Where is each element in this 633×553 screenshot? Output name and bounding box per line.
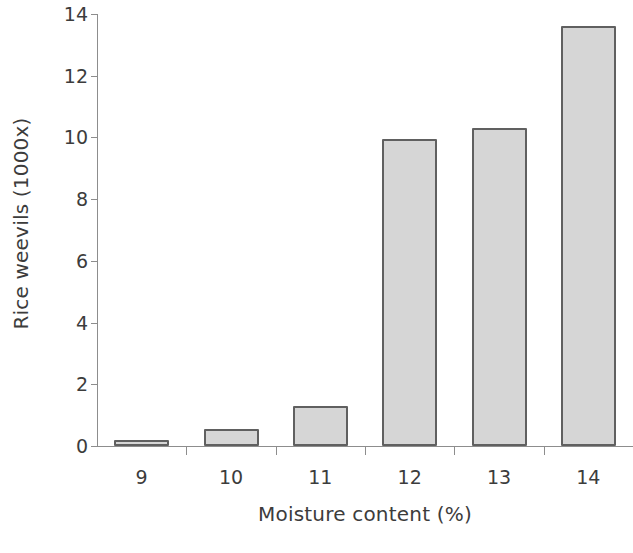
x-axis-tick-mark: [276, 447, 277, 455]
x-axis-tick-label: 14: [576, 466, 600, 488]
y-axis-tick-label: 8: [76, 188, 88, 210]
y-axis-tick-mark: [91, 323, 97, 324]
bar-chart-figure: Rice weevils (1000x) 02468101214 9101112…: [0, 0, 633, 553]
plot-area: 02468101214 91011121314: [97, 14, 633, 447]
y-axis-tick-label: 4: [76, 312, 88, 334]
x-axis-tick-label: 13: [487, 466, 511, 488]
y-axis-tick-mark: [91, 384, 97, 385]
bar: [293, 406, 348, 446]
y-axis-title: Rice weevils (1000x): [0, 0, 42, 447]
x-axis-tick-mark: [365, 447, 366, 455]
y-axis-tick-label: 10: [64, 126, 88, 148]
y-axis-tick-mark: [91, 199, 97, 200]
bar: [472, 128, 527, 446]
x-axis-tick-label: 12: [398, 466, 422, 488]
y-axis-tick-mark: [91, 137, 97, 138]
y-axis-tick-label: 0: [76, 435, 88, 457]
y-axis-tick-label: 12: [64, 65, 88, 87]
x-axis-tick-mark: [186, 447, 187, 455]
bar: [114, 440, 169, 446]
bar: [382, 139, 437, 446]
bar: [204, 429, 259, 446]
y-axis-tick-mark: [91, 261, 97, 262]
x-axis-tick-label: 10: [219, 466, 243, 488]
x-axis-tick-mark: [454, 447, 455, 455]
bar: [561, 26, 616, 446]
x-axis-title: Moisture content (%): [97, 502, 633, 526]
y-axis-tick-label: 2: [76, 373, 88, 395]
y-axis-tick-label: 6: [76, 250, 88, 272]
y-axis-spine: [97, 14, 98, 447]
y-axis-tick-mark: [91, 14, 97, 15]
y-axis-tick-label: 14: [64, 3, 88, 25]
x-axis-tick-label: 9: [136, 466, 148, 488]
x-axis-tick-label: 11: [308, 466, 332, 488]
y-axis-tick-mark: [91, 76, 97, 77]
y-axis-tick-mark: [91, 446, 97, 447]
x-axis-tick-mark: [544, 447, 545, 455]
